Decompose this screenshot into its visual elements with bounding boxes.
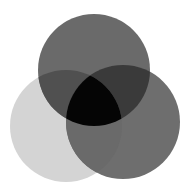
venn-diagram	[0, 0, 189, 194]
